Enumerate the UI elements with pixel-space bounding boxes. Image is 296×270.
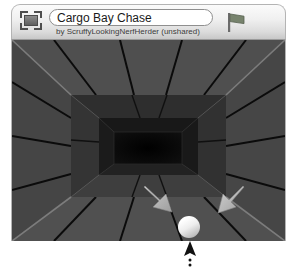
bracket-top-right — [34, 11, 42, 18]
bracket-bottom-left — [20, 23, 28, 30]
project-title-input[interactable] — [49, 9, 213, 26]
bracket-bottom-right — [34, 23, 42, 30]
flag-button[interactable] — [223, 10, 251, 36]
game-viewport[interactable] — [11, 40, 286, 241]
game-window: by ScruffyLookingNerfHerder (unshared) — [11, 4, 286, 241]
player-ball[interactable] — [178, 216, 200, 238]
stop-button[interactable] — [255, 11, 279, 35]
thumbnail-icon[interactable] — [20, 11, 42, 30]
corridor-scene — [12, 40, 285, 241]
flag-icon — [223, 10, 251, 36]
bracket-top-left — [20, 11, 28, 18]
mouse-pointer — [184, 241, 196, 267]
title-bar: by ScruffyLookingNerfHerder (unshared) — [11, 4, 286, 40]
